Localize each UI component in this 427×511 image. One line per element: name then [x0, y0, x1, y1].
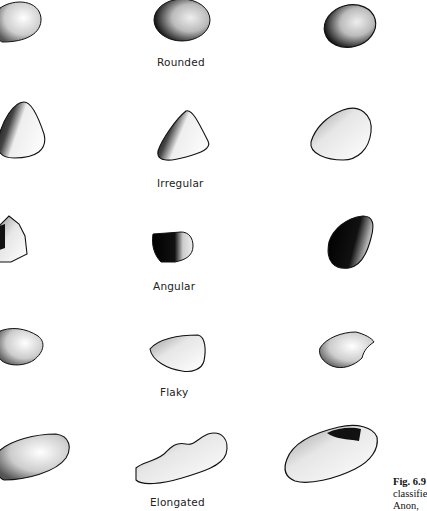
caption-line-2: classifie [393, 488, 427, 500]
angular-stone-3 [323, 214, 377, 272]
row-label-rounded: Rounded [157, 56, 205, 68]
flaky-stone-1 [0, 326, 50, 370]
rounded-stone-2 [153, 0, 213, 45]
row-label-elongated: Elongated [150, 496, 205, 508]
irregular-stone-2 [156, 109, 212, 165]
caption-line-3: Anon, [393, 500, 427, 511]
rounded-stone-3 [323, 3, 379, 49]
figure-caption: Fig. 6.9 classifie Anon, [393, 476, 427, 511]
elongated-stone-3 [283, 421, 381, 487]
flaky-stone-3 [318, 330, 376, 372]
elongated-stone-2 [132, 428, 230, 486]
rounded-stone-1 [0, 0, 50, 45]
angular-stone-1 [0, 214, 31, 266]
figure-number: Fig. 6.9 [393, 476, 427, 488]
row-label-irregular: Irregular [157, 177, 204, 189]
irregular-stone-1 [0, 100, 54, 162]
angular-stone-2 [149, 230, 195, 264]
flaky-stone-2 [148, 333, 208, 375]
elongated-stone-1 [0, 432, 74, 484]
irregular-stone-3 [309, 106, 375, 164]
row-label-angular: Angular [153, 280, 195, 292]
row-label-flaky: Flaky [160, 386, 188, 398]
